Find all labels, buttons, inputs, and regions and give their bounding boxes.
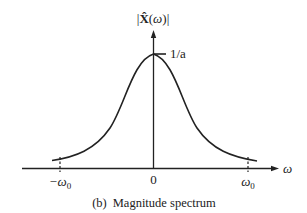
- x-axis-label: ω: [283, 161, 292, 176]
- tick-label-zero: 0: [150, 172, 157, 187]
- spectrum-curve: [52, 54, 257, 161]
- tick-label-neg-omega0: −ω0: [49, 174, 72, 191]
- y-axis-label: |X̂(ω)|: [137, 11, 169, 26]
- magnitude-spectrum-chart: |X̂(ω)| 1/a ω −ω0 0 ω0 (b)Magnitude spec…: [0, 0, 307, 213]
- peak-label: 1/a: [170, 46, 186, 61]
- figure-caption: (b)Magnitude spectrum: [92, 196, 216, 210]
- x-axis-arrow-icon: [271, 166, 279, 171]
- y-axis-arrow-icon: [151, 30, 156, 38]
- tick-label-omega0: ω0: [241, 174, 255, 191]
